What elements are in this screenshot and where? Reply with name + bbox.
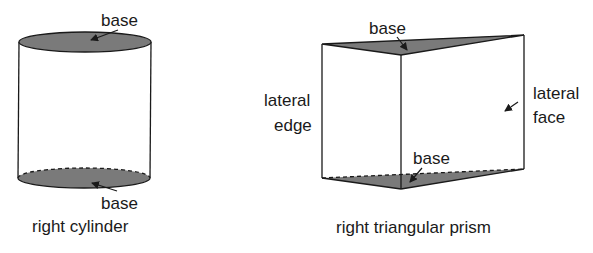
cylinder-top-base xyxy=(19,32,151,52)
prism-lateral-edge-label-line2: edge xyxy=(274,116,312,135)
prism-lateral-face-label-line1: lateral xyxy=(533,84,579,103)
cylinder-top-base-label: base xyxy=(101,11,138,30)
prism-top-base-label: base xyxy=(369,19,406,38)
cylinder-caption: right cylinder xyxy=(32,217,129,236)
geometry-diagram: base base right cylinder base base later… xyxy=(0,0,593,253)
prism-caption: right triangular prism xyxy=(336,218,491,237)
prism-lateral-face-arrow-icon xyxy=(505,102,518,111)
right-triangular-prism: base base lateral edge lateral face righ… xyxy=(264,19,579,237)
prism-bottom-base-label: base xyxy=(413,149,450,168)
cylinder-right-side xyxy=(150,42,151,178)
cylinder-left-side xyxy=(18,42,19,178)
right-cylinder: base base right cylinder xyxy=(18,11,151,236)
prism-lateral-face-label-line2: face xyxy=(533,108,565,127)
cylinder-bottom-base-label: base xyxy=(101,194,138,213)
prism-lateral-edge-label-line1: lateral xyxy=(264,91,310,110)
prism-top-base xyxy=(322,35,524,55)
